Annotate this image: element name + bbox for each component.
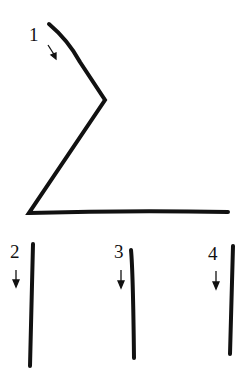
stroke-diagram <box>0 0 247 378</box>
arrow-3-icon <box>118 270 124 288</box>
arrow-1-icon <box>48 45 56 59</box>
stroke-number-3: 3 <box>114 242 124 261</box>
stroke-number-2: 2 <box>10 242 20 261</box>
stroke-number-4: 4 <box>208 244 218 263</box>
arrow-4-icon <box>213 271 219 289</box>
stroke-2 <box>30 244 33 366</box>
stroke-4 <box>230 246 233 354</box>
stroke-1 <box>29 24 228 213</box>
stroke-3 <box>131 250 134 358</box>
stroke-number-1: 1 <box>29 25 39 44</box>
arrow-2-icon <box>13 270 19 287</box>
